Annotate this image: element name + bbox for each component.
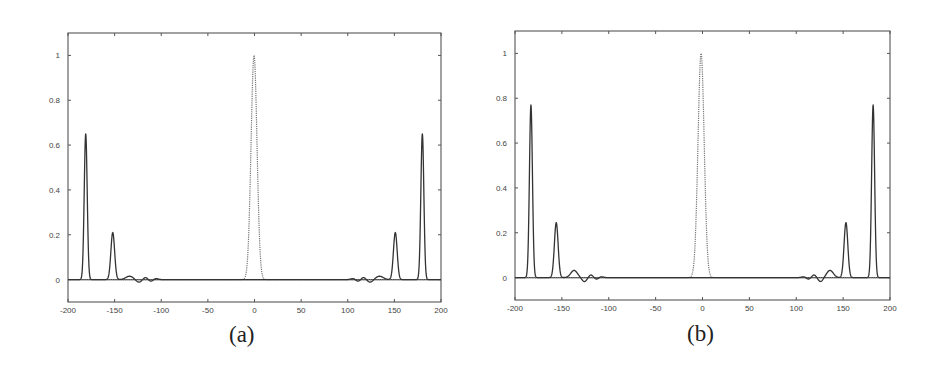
y-tick-label: 1 bbox=[503, 49, 508, 58]
x-tick-label: 200 bbox=[883, 304, 897, 313]
y-tick-label: 0.2 bbox=[496, 229, 508, 238]
y-tick-label: 0.4 bbox=[496, 184, 508, 193]
chart-panel-b: -200-150-100-5005010015020000.20.40.60.8… bbox=[0, 0, 941, 320]
y-tick-label: 0 bbox=[503, 274, 508, 283]
x-tick-label: -150 bbox=[554, 304, 571, 313]
x-tick-label: -200 bbox=[507, 304, 524, 313]
series-central-peak-line bbox=[515, 53, 890, 277]
x-tick-label: -50 bbox=[650, 304, 662, 313]
caption-b: (b) bbox=[687, 322, 714, 345]
x-tick-label: 100 bbox=[790, 304, 804, 313]
y-tick-label: 0.6 bbox=[496, 139, 508, 148]
x-tick-label: -100 bbox=[601, 304, 618, 313]
y-tick-label: 0.8 bbox=[496, 94, 508, 103]
x-tick-label: 0 bbox=[700, 304, 705, 313]
x-tick-label: 50 bbox=[745, 304, 754, 313]
x-tick-label: 150 bbox=[836, 304, 850, 313]
caption-a: (a) bbox=[229, 323, 255, 346]
series-side-peaks-line bbox=[515, 105, 890, 282]
line-chart-b: -200-150-100-5005010015020000.20.40.60.8… bbox=[0, 0, 941, 320]
plot-frame bbox=[515, 31, 890, 300]
